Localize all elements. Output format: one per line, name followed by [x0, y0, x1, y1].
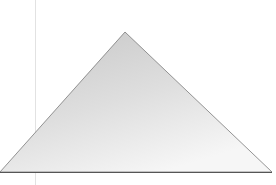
triangle-shape	[0, 0, 276, 185]
